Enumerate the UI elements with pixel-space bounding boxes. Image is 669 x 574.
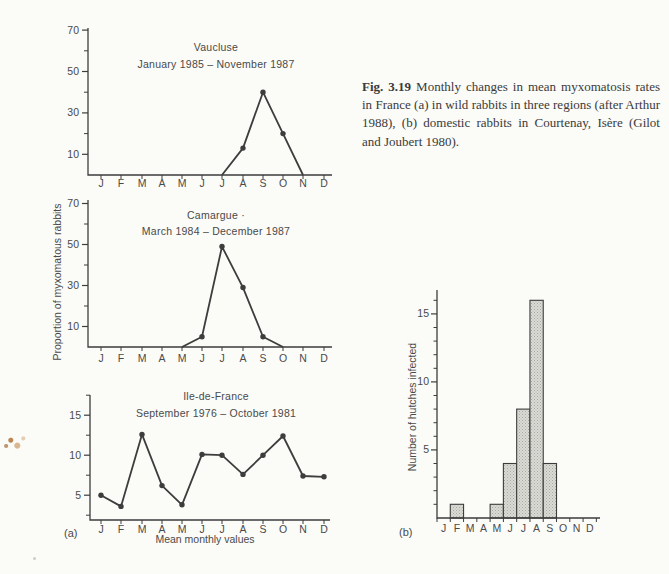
svg-text:50: 50 [67, 238, 79, 250]
svg-text:M: M [138, 352, 147, 364]
svg-text:O: O [279, 352, 287, 364]
svg-text:J: J [219, 177, 224, 189]
svg-text:A: A [239, 352, 246, 364]
svg-text:M: M [178, 177, 187, 189]
svg-text:J: J [199, 352, 204, 364]
panel-b-y-axis-label: Number of hutches infected [406, 343, 418, 471]
svg-text:M: M [466, 522, 475, 534]
svg-text:J: J [199, 177, 204, 189]
panel-a-x-axis-label: Mean monthly values [55, 533, 355, 545]
svg-text:10: 10 [69, 449, 81, 461]
page-edge-shadow [660, 0, 662, 574]
svg-text:D: D [320, 352, 328, 364]
camargue-subtitle: March 1984 – December 1987 [66, 225, 366, 237]
svg-text:J: J [521, 522, 526, 534]
scanned-page: 10305070JFMAMJJASOND10305070JFMAMJJASOND… [0, 0, 669, 574]
figure-caption: Fig. 3.19 Monthly changes in mean myxoma… [362, 78, 660, 151]
svg-text:10: 10 [417, 375, 429, 387]
svg-text:J: J [98, 177, 103, 189]
svg-text:M: M [492, 522, 501, 534]
svg-text:J: J [98, 352, 103, 364]
panel-b-label: (b) [399, 526, 412, 538]
svg-text:N: N [573, 522, 581, 534]
svg-text:30: 30 [67, 279, 79, 291]
svg-text:15: 15 [417, 307, 429, 319]
svg-text:A: A [158, 352, 165, 364]
svg-text:M: M [138, 177, 147, 189]
svg-text:S: S [259, 352, 266, 364]
svg-text:A: A [239, 177, 246, 189]
paper-speck-artifact [33, 557, 36, 560]
panel-a-y-axis-label: Proportion of myxomatous rabbits [51, 204, 63, 361]
svg-text:70: 70 [67, 197, 79, 209]
svg-text:O: O [559, 522, 567, 534]
svg-text:5: 5 [423, 443, 429, 455]
svg-text:J: J [507, 522, 512, 534]
svg-text:D: D [586, 522, 594, 534]
svg-text:70: 70 [67, 24, 79, 36]
svg-text:A: A [533, 522, 540, 534]
svg-text:N: N [299, 352, 307, 364]
paper-stain-artifact [3, 433, 29, 451]
svg-text:F: F [454, 522, 460, 534]
svg-text:M: M [178, 352, 187, 364]
svg-text:S: S [259, 177, 266, 189]
camargue-title: Camargue · [66, 209, 366, 221]
svg-text:A: A [480, 522, 487, 534]
hutches-chart: 51015JFMAMJJASOND [417, 290, 600, 534]
panel-a-label: (a) [64, 527, 77, 539]
vaucluse-subtitle: January 1985 – November 1987 [66, 58, 366, 70]
svg-text:F: F [118, 177, 124, 189]
svg-text:10: 10 [67, 320, 79, 332]
svg-text:5: 5 [75, 489, 81, 501]
ile-de-france-subtitle: September 1976 – October 1981 [66, 407, 366, 419]
svg-text:10: 10 [67, 148, 79, 160]
svg-text:S: S [546, 522, 553, 534]
vaucluse-title: Vaucluse [66, 41, 366, 53]
camargue-chart: 10305070JFMAMJJASOND [67, 197, 332, 364]
figure-caption-label: Fig. 3.19 [362, 79, 411, 94]
svg-text:O: O [279, 177, 287, 189]
svg-text:F: F [118, 352, 124, 364]
svg-text:A: A [158, 177, 165, 189]
ile-de-france-title: Ile-de-France [66, 390, 366, 402]
svg-text:D: D [320, 177, 328, 189]
svg-text:J: J [441, 522, 446, 534]
svg-text:N: N [299, 177, 307, 189]
svg-text:30: 30 [67, 106, 79, 118]
svg-text:J: J [219, 352, 224, 364]
